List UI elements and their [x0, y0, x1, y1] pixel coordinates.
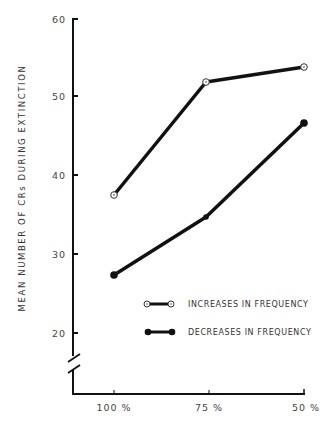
series-increases — [111, 64, 308, 199]
x-tick-50: 50 % — [292, 402, 320, 413]
y-axis-title: MEAN NUMBER OF CRs DURING EXTINCTION — [17, 65, 27, 312]
y-tick-labels: 60 50 40 30 20 — [52, 14, 66, 339]
x-tick-100: 100 % — [96, 402, 131, 413]
y-tick-40: 40 — [52, 170, 66, 181]
legend: INCREASES IN FREQUENCY DECREASES IN FREQ… — [144, 300, 311, 337]
x-tick-labels: 100 % 75 % 50 % — [96, 402, 320, 413]
x-tick-75: 75 % — [195, 402, 223, 413]
y-axis — [68, 18, 80, 395]
x-axis — [72, 389, 305, 394]
point-decreases-100 — [110, 271, 118, 279]
y-tick-20: 20 — [52, 328, 66, 339]
line-chart: MEAN NUMBER OF CRs DURING EXTINCTION 60 … — [0, 0, 327, 424]
y-tick-50: 50 — [52, 91, 66, 102]
point-decreases-75 — [203, 214, 209, 220]
legend-label-increases: INCREASES IN FREQUENCY — [188, 300, 309, 309]
y-tick-30: 30 — [52, 249, 66, 260]
series-decreases — [110, 119, 308, 279]
legend-item-increases: INCREASES IN FREQUENCY — [144, 300, 309, 309]
legend-label-decreases: DECREASES IN FREQUENCY — [188, 328, 311, 337]
y-tick-60: 60 — [52, 14, 66, 25]
point-decreases-50 — [300, 119, 308, 127]
legend-item-decreases: DECREASES IN FREQUENCY — [145, 328, 312, 337]
